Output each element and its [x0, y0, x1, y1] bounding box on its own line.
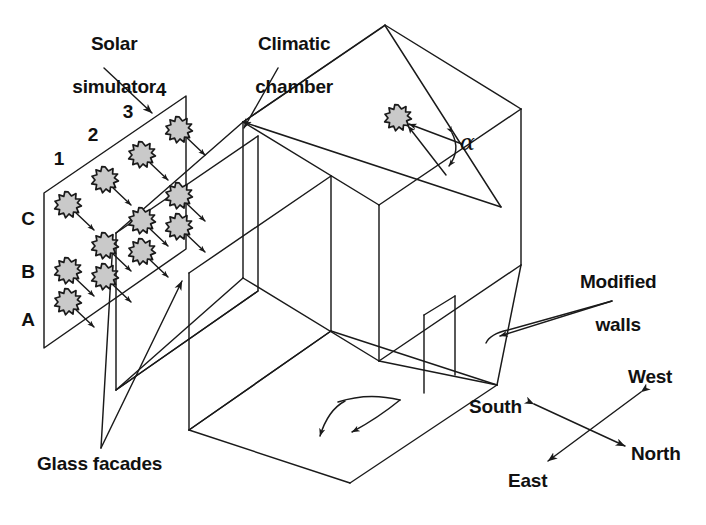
compass-axis-south-north — [534, 404, 625, 446]
chamber-lower-right — [379, 361, 497, 385]
compass-axis-west-east — [548, 392, 641, 461]
compass-label-west: West — [628, 366, 672, 387]
compass-rose — [534, 392, 641, 461]
climatic-chamber-label-line1: Climatic — [258, 33, 330, 54]
lamp-row-label-A: A — [18, 309, 38, 330]
solar-simulator-label-line2: simulator — [72, 76, 156, 97]
chamber-floor — [189, 265, 521, 483]
rotation-arc — [320, 396, 400, 436]
compass-label-north: North — [631, 443, 681, 464]
solar-simulator-label: Solar simulator — [34, 12, 174, 118]
lamp-row-label-C: C — [18, 208, 38, 229]
modified-walls-label-line2: walls — [595, 314, 640, 335]
figure-canvas: Solar simulator Climatic chamber Modifie… — [0, 0, 706, 525]
modified-walls-label-line1: Modified — [580, 271, 657, 292]
modified-wall-panel — [424, 296, 455, 393]
compass-label-south: South — [469, 396, 522, 417]
glass-facades-label: Glass facades — [37, 453, 162, 474]
lamp-angle-detail — [385, 105, 412, 131]
lamp-column-label-1: 1 — [50, 148, 68, 169]
leader-glass-facade-2 — [101, 281, 182, 448]
glass-facade-panel-front — [116, 136, 258, 390]
incidence-angle-label: α — [460, 131, 475, 156]
modified-walls-label: Modified walls — [533, 250, 683, 356]
lamp-column-label-4: 4 — [152, 79, 170, 100]
lamp-column-label-2: 2 — [84, 124, 102, 145]
lamp-array — [55, 105, 412, 315]
climatic-chamber-label: Climatic chamber — [208, 12, 360, 118]
glass-facade-panel-rear — [189, 176, 331, 430]
climatic-chamber-label-line2: chamber — [255, 76, 333, 97]
solar-simulator-label-line1: Solar — [91, 33, 138, 54]
lamp-row-label-B: B — [18, 261, 38, 282]
lamp-column-label-3: 3 — [119, 101, 137, 122]
compass-label-east: East — [508, 470, 547, 491]
